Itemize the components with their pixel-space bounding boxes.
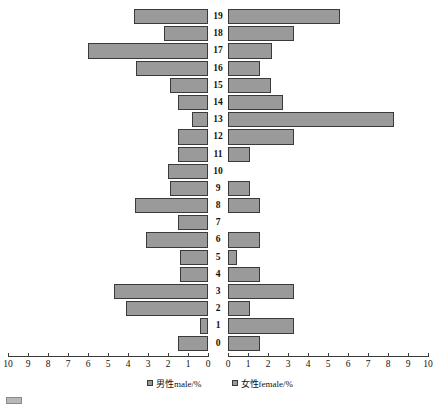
female-bar[interactable] (228, 112, 394, 127)
male-bar[interactable] (135, 198, 208, 213)
female-bar[interactable] (228, 336, 260, 351)
male-bar[interactable] (178, 336, 208, 351)
female-bar[interactable] (228, 181, 250, 196)
male-bar[interactable] (200, 318, 208, 333)
female-bar[interactable] (228, 61, 260, 76)
category-label: 7 (208, 214, 228, 231)
legend-item-male[interactable]: 男性male/% (147, 377, 202, 390)
female-bar-cell (228, 42, 428, 59)
axis-tick (368, 353, 369, 357)
category-label: 11 (208, 146, 228, 163)
axis-tick-label: 5 (99, 359, 117, 369)
male-bar[interactable] (178, 95, 208, 110)
male-bar[interactable] (134, 9, 208, 24)
axis-tick-label: 1 (239, 359, 257, 369)
male-bar-cell (8, 214, 208, 231)
pyramid-row: 14 (0, 94, 440, 111)
male-bar-cell (8, 8, 208, 25)
female-bar[interactable] (228, 301, 250, 316)
x-axis-area: 109876543210 012345678910 (0, 352, 440, 374)
axis-tick (348, 353, 349, 357)
male-bar[interactable] (170, 78, 208, 93)
male-bar-cell (8, 94, 208, 111)
male-bar[interactable] (170, 181, 208, 196)
axis-tick-label: 7 (59, 359, 77, 369)
category-label: 16 (208, 60, 228, 77)
chart-legend: 男性male/% 女性female/% (0, 376, 440, 390)
axis-tick-label: 3 (279, 359, 297, 369)
female-bar[interactable] (228, 284, 294, 299)
female-bar[interactable] (228, 9, 340, 24)
female-bar[interactable] (228, 198, 260, 213)
pyramid-row: 2 (0, 300, 440, 317)
female-bar[interactable] (228, 147, 250, 162)
pyramid-row: 15 (0, 77, 440, 94)
male-bar[interactable] (126, 301, 208, 316)
female-bar[interactable] (228, 250, 237, 265)
male-bar-cell (8, 111, 208, 128)
pyramid-row: 9 (0, 180, 440, 197)
male-bar[interactable] (180, 250, 208, 265)
female-bar[interactable] (228, 318, 294, 333)
axis-tick (8, 353, 9, 357)
axis-tick (208, 353, 209, 357)
female-bar[interactable] (228, 267, 260, 282)
male-bar[interactable] (136, 61, 208, 76)
axis-tick-label: 8 (39, 359, 57, 369)
male-bar[interactable] (168, 164, 208, 179)
legend-item-female[interactable]: 女性female/% (232, 377, 293, 390)
category-label: 12 (208, 128, 228, 145)
female-bar[interactable] (228, 95, 283, 110)
caption-marker-icon (6, 397, 22, 404)
male-bar-cell (8, 146, 208, 163)
category-label: 8 (208, 197, 228, 214)
male-bar-cell (8, 60, 208, 77)
male-bar[interactable] (164, 26, 208, 41)
male-bar-cell (8, 25, 208, 42)
male-bar-cell (8, 266, 208, 283)
category-label: 0 (208, 335, 228, 352)
female-bar-cell (228, 128, 428, 145)
female-bar-cell (228, 335, 428, 352)
axis-tick-label: 9 (19, 359, 37, 369)
axis-tick-label: 6 (79, 359, 97, 369)
male-bar[interactable] (146, 232, 208, 247)
male-bar[interactable] (114, 284, 208, 299)
male-bar[interactable] (178, 147, 208, 162)
male-bar[interactable] (192, 112, 208, 127)
male-bar[interactable] (180, 267, 208, 282)
axis-tick-label: 8 (379, 359, 397, 369)
pyramid-row: 11 (0, 146, 440, 163)
axis-tick (308, 353, 309, 357)
axis-tick (168, 353, 169, 357)
male-bar[interactable] (178, 215, 208, 230)
pyramid-row: 19 (0, 8, 440, 25)
male-bar-cell (8, 249, 208, 266)
pyramid-row: 4 (0, 266, 440, 283)
female-bar[interactable] (228, 232, 260, 247)
male-bar-cell (8, 300, 208, 317)
male-bar-cell (8, 163, 208, 180)
axis-tick-label: 4 (119, 359, 137, 369)
axis-tick-label: 10 (419, 359, 437, 369)
female-bar-cell (228, 94, 428, 111)
axis-tick-label: 2 (259, 359, 277, 369)
female-bar[interactable] (228, 78, 271, 93)
pyramid-row: 6 (0, 231, 440, 248)
category-label: 9 (208, 180, 228, 197)
legend-swatch-female-icon (232, 380, 238, 386)
axis-tick-label: 4 (299, 359, 317, 369)
female-bar-cell (228, 180, 428, 197)
female-bar-cell (228, 60, 428, 77)
female-bar[interactable] (228, 43, 272, 58)
female-bar-cell (228, 214, 428, 231)
female-bar-cell (228, 283, 428, 300)
male-bar[interactable] (178, 129, 208, 144)
axis-tick (108, 353, 109, 357)
female-bar[interactable] (228, 26, 294, 41)
male-bar-cell (8, 231, 208, 248)
axis-tick-label: 5 (319, 359, 337, 369)
female-bar[interactable] (228, 129, 294, 144)
population-pyramid-chart: 191817161514131211109876543210 109876543… (0, 0, 440, 407)
male-bar[interactable] (88, 43, 208, 58)
